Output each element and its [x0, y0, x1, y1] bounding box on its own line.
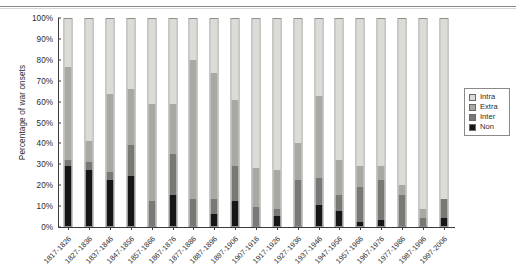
bar-segment-inter	[398, 195, 405, 226]
bar-segment-extra	[357, 166, 364, 187]
bar-segment-inter	[127, 145, 134, 176]
bar-segment-intra	[273, 19, 280, 170]
stacked-bar[interactable]	[293, 18, 302, 227]
stacked-bar[interactable]	[64, 18, 73, 227]
stacked-bar[interactable]	[418, 18, 427, 227]
bar-segment-non	[315, 205, 322, 226]
bar-segment-extra	[398, 185, 405, 195]
bar-segment-non	[169, 195, 176, 226]
bar-slot	[121, 18, 142, 227]
x-tick-mark	[444, 227, 445, 230]
bar-segment-inter	[232, 166, 239, 201]
legend-item-inter[interactable]: Inter	[469, 112, 506, 122]
bar-segment-intra	[294, 19, 301, 143]
bar-slot	[183, 18, 204, 227]
legend: IntraExtraInterNon	[464, 88, 510, 136]
legend-swatch-non	[469, 124, 476, 131]
x-tick-mark	[235, 227, 236, 230]
bar-segment-extra	[252, 168, 259, 207]
x-tick-mark	[402, 227, 403, 230]
y-axis-tick-label: 30%	[37, 160, 58, 169]
x-tick-mark	[193, 227, 194, 230]
bar-segment-intra	[378, 19, 385, 166]
legend-swatch-inter	[469, 114, 476, 121]
stacked-bar[interactable]	[147, 18, 156, 227]
bar-slot	[287, 18, 308, 227]
top-rule	[0, 6, 516, 7]
bar-segment-inter	[190, 199, 197, 226]
stacked-bar[interactable]	[189, 18, 198, 227]
legend-label: Extra	[480, 102, 498, 112]
stacked-bar[interactable]	[377, 18, 386, 227]
bar-segment-inter	[357, 187, 364, 222]
legend-label: Intra	[480, 92, 495, 102]
stacked-bar[interactable]	[314, 18, 323, 227]
bar-segment-inter	[440, 199, 447, 218]
legend-item-non[interactable]: Non	[469, 122, 506, 132]
bar-segment-extra	[315, 96, 322, 179]
bar-slot	[141, 18, 162, 227]
bar-segment-extra	[190, 60, 197, 199]
x-tick-mark	[131, 227, 132, 230]
chart-figure: Percentage of war onsets 0%10%20%30%40%5…	[0, 0, 516, 277]
bar-segment-intra	[419, 19, 426, 209]
y-axis-tick-label: 80%	[37, 55, 58, 64]
stacked-bar[interactable]	[272, 18, 281, 227]
bar-segment-inter	[211, 199, 218, 213]
bar-group	[58, 18, 454, 227]
bar-segment-extra	[232, 100, 239, 166]
bar-segment-non	[378, 220, 385, 226]
x-tick-mark	[423, 227, 424, 230]
bar-slot	[204, 18, 225, 227]
bar-segment-extra	[378, 166, 385, 180]
y-axis-tick-label: 40%	[37, 139, 58, 148]
stacked-bar[interactable]	[210, 18, 219, 227]
bar-segment-extra	[148, 104, 155, 201]
x-tick-mark	[381, 227, 382, 230]
bar-segment-non	[107, 180, 114, 226]
bar-segment-intra	[440, 19, 447, 199]
stacked-bar[interactable]	[397, 18, 406, 227]
x-tick-mark	[152, 227, 153, 230]
plot-area: 0%10%20%30%40%50%60%70%80%90%100%	[58, 18, 454, 227]
bar-segment-intra	[211, 19, 218, 73]
bar-segment-inter	[107, 172, 114, 180]
y-axis-tick-label: 10%	[37, 202, 58, 211]
stacked-bar[interactable]	[231, 18, 240, 227]
bar-segment-non	[211, 214, 218, 226]
bar-segment-inter	[169, 154, 176, 195]
bar-segment-non	[86, 170, 93, 226]
bar-slot	[246, 18, 267, 227]
bar-slot	[433, 18, 454, 227]
bar-segment-intra	[252, 19, 259, 168]
bar-segment-intra	[336, 19, 343, 160]
bar-segment-inter	[252, 207, 259, 226]
bar-segment-extra	[294, 143, 301, 180]
bar-segment-inter	[419, 218, 426, 226]
bar-segment-intra	[65, 19, 72, 67]
bar-segment-extra	[86, 141, 93, 162]
stacked-bar[interactable]	[335, 18, 344, 227]
bar-slot	[266, 18, 287, 227]
legend-item-intra[interactable]: Intra	[469, 92, 506, 102]
stacked-bar[interactable]	[168, 18, 177, 227]
x-tick-mark	[173, 227, 174, 230]
stacked-bar[interactable]	[126, 18, 135, 227]
bar-slot	[58, 18, 79, 227]
bar-segment-non	[336, 211, 343, 225]
bar-segment-extra	[336, 160, 343, 195]
x-tick-mark	[319, 227, 320, 230]
x-tick-mark	[68, 227, 69, 230]
x-tick-mark	[110, 227, 111, 230]
stacked-bar[interactable]	[85, 18, 94, 227]
stacked-bar[interactable]	[251, 18, 260, 227]
stacked-bar[interactable]	[106, 18, 115, 227]
bar-segment-inter	[378, 180, 385, 219]
bar-segment-intra	[86, 19, 93, 141]
stacked-bar[interactable]	[356, 18, 365, 227]
stacked-bar[interactable]	[439, 18, 448, 227]
x-tick-mark	[214, 227, 215, 230]
bar-segment-intra	[169, 19, 176, 104]
legend-item-extra[interactable]: Extra	[469, 102, 506, 112]
bar-segment-inter	[315, 178, 322, 205]
